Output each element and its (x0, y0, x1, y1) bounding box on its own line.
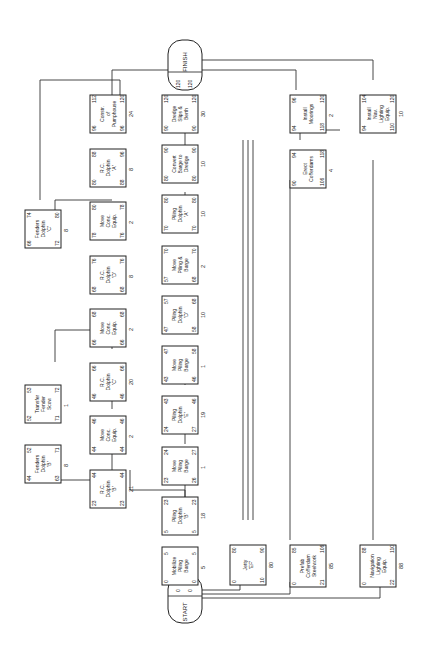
activity-node: ConvertBarge toDredge8090809010 (162, 145, 206, 183)
late-finish: 23 (191, 499, 197, 505)
duration: 19 (200, 412, 206, 418)
activity-label: Scow (46, 398, 52, 411)
early-finish: 44 (91, 472, 97, 478)
activity-label: Cofferdams (308, 156, 314, 182)
early-finish: 24 (163, 449, 169, 455)
activity-node: FendersDolphin'B'445263718 (25, 445, 69, 483)
early-start: 90 (163, 125, 169, 131)
late-start: 110 (389, 123, 395, 131)
duration: 4 (328, 169, 334, 172)
duration: 2 (128, 221, 134, 224)
late-finish: 78 (119, 204, 125, 210)
early-finish: 80 (163, 197, 169, 203)
activity-label: Barge (183, 358, 189, 372)
duration: 18 (200, 513, 206, 519)
early-finish: 43 (163, 398, 169, 404)
late-start: 71 (54, 415, 60, 421)
early-finish: 104 (361, 94, 367, 103)
early-start: 94 (291, 125, 297, 131)
late-finish: 58 (191, 348, 197, 354)
activity-node: FendersDolphin'C'667472808 (25, 210, 69, 248)
late-start: 26 (191, 477, 197, 483)
early-finish: 80 (91, 204, 97, 210)
svg-text:FINISH: FINISH (182, 52, 188, 72)
early-start: 78 (91, 232, 97, 238)
svg-text:120: 120 (175, 79, 181, 88)
early-start: 23 (163, 477, 169, 483)
late-finish: 96 (119, 151, 125, 157)
early-finish: 76 (91, 258, 97, 264)
late-finish: 80 (54, 212, 60, 218)
activity-label: Pumphouse (111, 100, 117, 127)
early-start: 0 (291, 582, 297, 585)
early-start: 80 (163, 175, 169, 181)
duration: 1 (63, 404, 69, 407)
activity-node: DredgeSlips &Berth901209012030 (162, 94, 206, 133)
activity-node: ErectCofferdams90941061184 (290, 150, 334, 188)
activity-node: Jetty'EF'080109080 (230, 545, 274, 585)
network-diagram: START 0 0 FINISH 120 120 MobilizePilingB… (0, 0, 424, 657)
activity-label: Berth (183, 108, 189, 120)
duration: 8 (63, 464, 69, 467)
activity-label: Barge (183, 559, 189, 573)
activity-node: PilingDolphin'B'52352318 (162, 497, 206, 535)
late-start: 68 (191, 276, 197, 282)
activity-node: PrefabCofferdamSteelwork0852110685 (290, 544, 334, 587)
late-finish: 72 (54, 387, 60, 393)
late-finish: 46 (191, 398, 197, 404)
late-finish: 80 (191, 197, 197, 203)
activity-label: 'A' (111, 165, 117, 170)
activity-label: 'E' (183, 412, 189, 417)
activity-label: Steelwork (311, 555, 317, 577)
duration: 10 (200, 312, 206, 318)
early-finish: 68 (91, 311, 97, 317)
early-start: 44 (26, 475, 32, 481)
activity-label: Equip. (384, 107, 390, 121)
early-start: 52 (26, 415, 32, 421)
early-finish: 66 (91, 365, 97, 371)
late-start: 66 (119, 339, 125, 345)
duration: 5 (200, 566, 206, 569)
late-finish: 5 (191, 552, 197, 555)
activity-label: 'B' (183, 513, 189, 518)
early-finish: 23 (163, 499, 169, 505)
svg-text:0: 0 (187, 589, 193, 592)
activity-node: R.C.Dolphin'B'2344234421 (90, 470, 134, 508)
early-start: 80 (91, 179, 97, 185)
duration: 88 (398, 563, 404, 569)
activity-node: TransferFenderScow525371721 (25, 385, 69, 423)
early-finish: 96 (291, 97, 297, 103)
activity-node: Constr.ofPumphouse961129612024 (90, 94, 134, 133)
late-start: 90 (191, 125, 197, 131)
early-start: 70 (163, 225, 169, 231)
activity-label: Equip. (111, 214, 117, 228)
activity-label: 'EF' (248, 561, 254, 569)
late-finish: 90 (191, 147, 197, 153)
svg-text:0: 0 (175, 589, 181, 592)
early-start: 66 (91, 339, 97, 345)
activity-label: 'C' (46, 226, 52, 232)
early-start: 68 (91, 286, 97, 292)
duration: 10 (200, 161, 206, 167)
activity-node: InstallMoorings94961181202 (290, 94, 334, 133)
early-start: 94 (361, 125, 367, 131)
activity-label: Equip. (381, 559, 387, 573)
duration: 2 (128, 435, 134, 438)
early-finish: 80 (231, 547, 237, 553)
duration: 2 (328, 114, 334, 117)
early-start: 44 (91, 446, 97, 452)
duration: 2 (128, 328, 134, 331)
late-finish: 70 (191, 248, 197, 254)
late-start: 22 (389, 579, 395, 585)
activity-label: 'B' (111, 486, 117, 491)
duration: 21 (128, 486, 134, 492)
late-finish: 120 (191, 94, 197, 103)
late-finish: 106 (319, 544, 325, 553)
early-finish: 85 (291, 547, 297, 553)
early-finish: 74 (26, 212, 32, 218)
late-start: 58 (191, 326, 197, 332)
activity-node: R.C.Dolphin'C'4666466620 (90, 363, 134, 401)
late-finish: 71 (54, 447, 60, 453)
finish-node: FINISH 120 120 (168, 40, 202, 90)
activity-node: MobilizePilingBarge05055 (162, 547, 206, 585)
